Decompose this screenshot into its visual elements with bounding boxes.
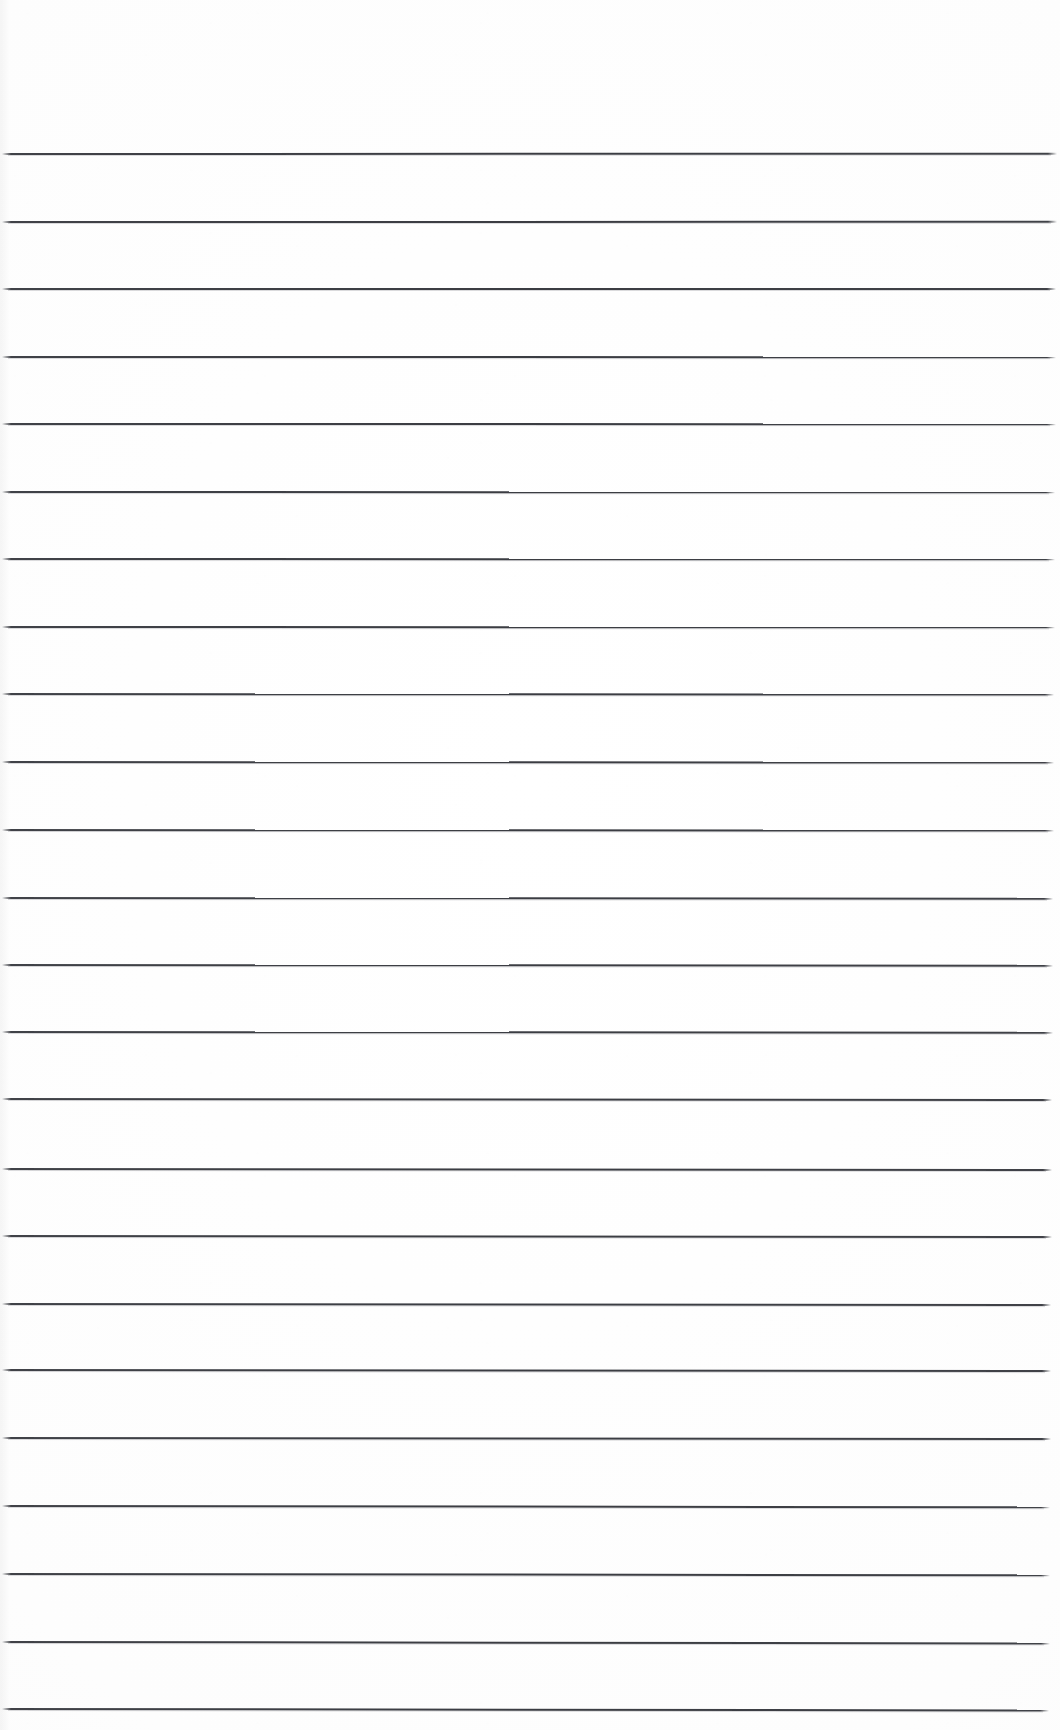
ruled-line <box>2 761 1054 764</box>
ruled-line-layer <box>0 0 1060 1730</box>
ruled-line <box>2 1505 1050 1508</box>
ruled-line <box>2 1573 1050 1576</box>
ruled-line <box>2 1437 1051 1440</box>
ruled-line <box>2 356 1056 358</box>
ruled-line <box>2 423 1056 425</box>
ruled-line <box>2 1098 1052 1101</box>
ruled-line <box>2 829 1054 832</box>
ruled-line <box>2 964 1053 967</box>
ruled-line <box>2 491 1055 493</box>
ruled-line <box>2 1303 1051 1306</box>
ruled-line <box>2 693 1054 696</box>
scanned-page <box>0 0 1060 1730</box>
ruled-line <box>2 1369 1051 1372</box>
ruled-line <box>2 288 1056 290</box>
ruled-line <box>2 153 1057 155</box>
ruled-line <box>2 1168 1052 1171</box>
ruled-line <box>2 1708 1049 1711</box>
ruled-line <box>2 1641 1050 1644</box>
ruled-line <box>2 1235 1052 1238</box>
ruled-line <box>2 1031 1053 1034</box>
ruled-line <box>2 558 1055 560</box>
ruled-line <box>2 221 1057 223</box>
ruled-line <box>2 626 1055 628</box>
ruled-line <box>2 897 1053 900</box>
